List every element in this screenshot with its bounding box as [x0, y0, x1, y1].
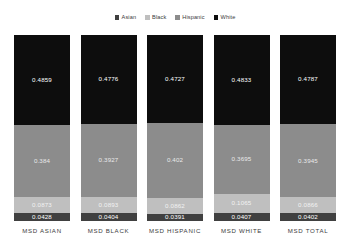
bar-segment-black[interactable]: 0.1065: [214, 194, 270, 214]
legend-item-asian[interactable]: Asian: [115, 15, 137, 21]
bar-segment-value-label: 0.3695: [232, 156, 252, 162]
bar-segment-value-label: 0.4833: [232, 77, 252, 83]
bar-segment-value-label: 0.3945: [298, 158, 318, 164]
bar-segment-hispanic[interactable]: 0.3927: [81, 124, 137, 197]
bar-segment-value-label: 0.0866: [298, 202, 318, 208]
bar-segment-white[interactable]: 0.4787: [280, 35, 336, 124]
legend-item-white[interactable]: White: [214, 15, 236, 21]
bar-segment-black[interactable]: 0.0893: [81, 197, 137, 214]
bar-segment-hispanic[interactable]: 0.402: [147, 123, 203, 198]
axis-spacer: [0, 234, 350, 249]
bar-segment-hispanic[interactable]: 0.3695: [214, 125, 270, 194]
legend-swatch-icon: [214, 15, 219, 20]
legend-item-label: Black: [152, 15, 166, 21]
chart-category: 0.48590.3840.08730.0428MSD ASIAN: [14, 35, 70, 234]
bar-segment-hispanic[interactable]: 0.3945: [280, 124, 336, 197]
bar-segment-white[interactable]: 0.4776: [81, 35, 137, 124]
bar-segment-black[interactable]: 0.0866: [280, 197, 336, 213]
legend-swatch-icon: [145, 15, 150, 20]
bar-segment-value-label: 0.402: [167, 157, 183, 163]
plot-area: 0.48590.3840.08730.0428MSD ASIAN0.47760.…: [0, 26, 350, 234]
bar-segment-value-label: 0.1065: [232, 200, 252, 206]
chart-category: 0.47870.39450.08660.0402MSD TOTAL: [280, 35, 336, 234]
bar-segment-black[interactable]: 0.0873: [14, 197, 70, 213]
bar-segment-asian[interactable]: 0.0404: [81, 213, 137, 221]
legend-item-label: Asian: [122, 15, 137, 21]
legend-swatch-icon: [115, 15, 120, 20]
bar-segment-white[interactable]: 0.4727: [147, 35, 203, 123]
chart-legend: AsianBlackHispanicWhite: [0, 0, 350, 26]
bar-segment-value-label: 0.3927: [99, 157, 119, 163]
stacked-bar[interactable]: 0.47270.4020.08620.0391: [147, 35, 203, 221]
bar-segment-value-label: 0.0407: [232, 214, 252, 220]
bar-segment-value-label: 0.0404: [99, 214, 119, 220]
bar-segment-value-label: 0.0873: [32, 202, 52, 208]
legend-item-label: White: [221, 15, 236, 21]
stacked-bar[interactable]: 0.48330.36950.10650.0407: [214, 35, 270, 221]
bar-segment-value-label: 0.4776: [99, 76, 119, 82]
chart-category: 0.48330.36950.10650.0407MSD WHITE: [214, 35, 270, 234]
legend-item-hispanic[interactable]: Hispanic: [175, 15, 204, 21]
chart-category: 0.47270.4020.08620.0391MSD HISPANIC: [147, 35, 203, 234]
legend-item-black[interactable]: Black: [145, 15, 166, 21]
bar-segment-hispanic[interactable]: 0.384: [14, 125, 70, 196]
bar-segment-value-label: 0.0402: [298, 214, 318, 220]
bar-segment-asian[interactable]: 0.0402: [280, 213, 336, 220]
bar-segment-white[interactable]: 0.4833: [214, 35, 270, 125]
bar-segment-value-label: 0.0391: [165, 214, 185, 220]
bar-segment-asian[interactable]: 0.0407: [214, 213, 270, 221]
stacked-bar[interactable]: 0.47870.39450.08660.0402: [280, 35, 336, 221]
stacked-bar[interactable]: 0.48590.3840.08730.0428: [14, 35, 70, 221]
bar-segment-value-label: 0.4859: [32, 77, 52, 83]
bar-segment-asian[interactable]: 0.0428: [14, 213, 70, 221]
bar-segment-value-label: 0.4727: [165, 76, 185, 82]
bar-segment-value-label: 0.4787: [298, 76, 318, 82]
stacked-bar-chart: AsianBlackHispanicWhite 0.48590.3840.087…: [0, 0, 350, 249]
chart-category: 0.47760.39270.08930.0404MSD BLACK: [81, 35, 137, 234]
legend-swatch-icon: [175, 15, 180, 20]
bar-segment-black[interactable]: 0.0862: [147, 198, 203, 214]
legend-item-label: Hispanic: [182, 15, 204, 21]
bar-segment-value-label: 0.384: [34, 158, 50, 164]
bar-segment-value-label: 0.0428: [32, 214, 52, 220]
bar-segment-value-label: 0.0893: [99, 202, 119, 208]
bar-segment-value-label: 0.0862: [165, 203, 185, 209]
bar-segment-white[interactable]: 0.4859: [14, 35, 70, 125]
stacked-bar[interactable]: 0.47760.39270.08930.0404: [81, 35, 137, 221]
bar-segment-asian[interactable]: 0.0391: [147, 214, 203, 221]
